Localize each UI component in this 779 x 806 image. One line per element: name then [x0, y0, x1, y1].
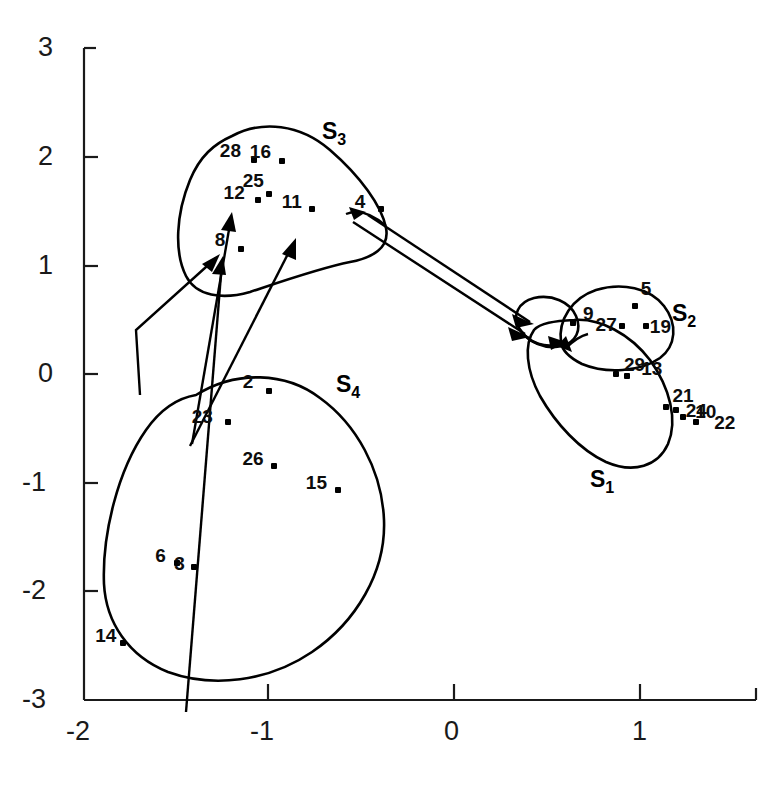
y-tick-label-0: 0: [38, 358, 53, 389]
data-point: [309, 206, 315, 212]
data-point: [378, 206, 384, 212]
data-point-label: 25: [243, 170, 264, 192]
arrow-11-head: [282, 238, 296, 260]
plot-canvas: [0, 0, 779, 806]
data-point-label: 23: [192, 406, 213, 428]
x-tick-label-0: 0: [444, 716, 459, 747]
data-point-label: 26: [242, 448, 263, 470]
data-point-label: 2: [243, 371, 254, 393]
cluster-label-s1-name: S: [590, 466, 605, 492]
data-point-label: 19: [650, 316, 671, 338]
data-point: [680, 414, 686, 420]
y-tick-label-3: 3: [38, 32, 53, 63]
y-axis-ticks: [84, 157, 98, 591]
cluster-label-s1: S1: [590, 466, 614, 497]
cluster-label-s3: S3: [322, 118, 346, 149]
cluster-label-s4: S4: [336, 371, 360, 402]
x-tick-label-1: 1: [632, 716, 647, 747]
data-point: [191, 564, 197, 570]
arrow-group: [136, 207, 588, 712]
data-point: [335, 487, 341, 493]
data-point-label: 15: [306, 472, 327, 494]
data-point: [255, 197, 261, 203]
data-point: [624, 373, 630, 379]
data-point-label: 28: [220, 140, 241, 162]
data-point-label: 5: [641, 278, 652, 300]
data-point-label: 3: [174, 553, 185, 575]
arrow-b-to-8: [186, 262, 222, 712]
cluster-label-s3-name: S: [322, 118, 337, 144]
x-axis-ticks: [268, 684, 640, 700]
scatter-plot-figure: 3 2 1 0 -1 -2 -3 -2 -1 0 1 S3 S2 S4 S1 2…: [0, 0, 779, 806]
cluster-label-s2: S2: [672, 300, 696, 331]
data-point: [619, 323, 625, 329]
cluster-label-s3-sub: 3: [337, 131, 346, 148]
y-tick-label-neg1: -1: [22, 467, 46, 498]
y-tick-label-neg2: -2: [22, 575, 46, 606]
data-point-label: 9: [583, 303, 594, 325]
cluster-label-s2-sub: 2: [687, 313, 696, 330]
data-point: [266, 388, 272, 394]
data-point: [613, 371, 619, 377]
x-tick-label-neg1: -1: [250, 716, 274, 747]
data-point-label: 12: [224, 182, 245, 204]
cluster-label-s1-sub: 1: [605, 479, 614, 496]
data-point: [120, 640, 126, 646]
data-point: [632, 303, 638, 309]
y-tick-label-2: 2: [38, 141, 53, 172]
data-point-label: 4: [355, 191, 366, 213]
data-point-label: 6: [155, 545, 166, 567]
x-tick-label-neg2: -2: [66, 716, 90, 747]
data-point: [570, 320, 576, 326]
data-point-label: 14: [95, 625, 116, 647]
data-point-label: 8: [215, 229, 226, 251]
data-point-label: 22: [714, 412, 735, 434]
data-point: [663, 404, 669, 410]
contour-s4: [104, 377, 384, 680]
data-point: [225, 419, 231, 425]
data-point: [266, 191, 272, 197]
arrow-4-to-s2: [368, 215, 530, 322]
data-point: [673, 407, 679, 413]
data-point: [643, 323, 649, 329]
data-point-label: 13: [641, 358, 662, 380]
cluster-label-s2-name: S: [672, 300, 687, 326]
data-point: [271, 463, 277, 469]
data-point: [279, 158, 285, 164]
data-point-label: 16: [250, 141, 271, 163]
data-point: [238, 246, 244, 252]
cluster-label-s4-sub: 4: [351, 384, 360, 401]
data-point: [693, 419, 699, 425]
data-point-label: 11: [282, 191, 302, 213]
cluster-label-s4-name: S: [336, 371, 351, 397]
y-tick-label-neg3: -3: [22, 684, 46, 715]
arrow-11-to-s2: [353, 222, 525, 334]
data-point-label: 27: [596, 314, 617, 336]
y-tick-label-1: 1: [38, 250, 53, 281]
